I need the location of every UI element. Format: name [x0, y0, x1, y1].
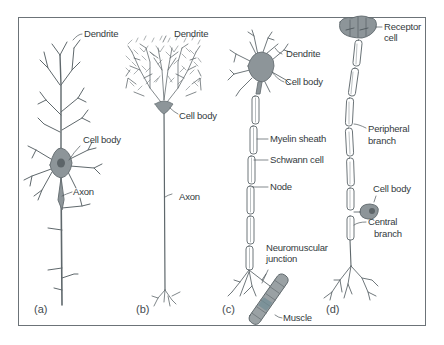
label-b-cell-body: Cell body [179, 111, 217, 121]
label-c-dendrite: Dendrite [286, 49, 320, 59]
label-c-neuromuscular-junction-line1: Neuromuscular [266, 243, 328, 253]
label-b-axon: Axon [179, 192, 200, 202]
panel-tag-c: (c) [222, 303, 235, 315]
label-a-axon: Axon [73, 187, 94, 197]
panel-tag-b: (b) [136, 303, 149, 315]
label-d-central-branch-line2: branch [374, 229, 402, 239]
label-c-node: Node [270, 182, 292, 192]
neuron-a [24, 40, 102, 305]
neuron-c [228, 30, 290, 326]
label-d-cell-body: Cell body [373, 184, 411, 194]
label-c-neuromuscular-junction-line2: junction [266, 254, 297, 264]
label-c-schwann-cell: Schwann cell [270, 155, 324, 165]
label-c-muscle: Muscle [283, 313, 312, 323]
label-d-central-branch-line1: Central [368, 217, 397, 227]
label-a-dendrite: Dendrite [84, 29, 118, 39]
panel-tag-d: (d) [326, 303, 339, 315]
label-d-receptor-cell-line1: Receptor [384, 22, 421, 32]
neuron-d [324, 16, 378, 300]
label-d-receptor-cell-line2: cell [384, 33, 397, 43]
neuron-diagram [0, 0, 444, 345]
label-a-cell-body: Cell body [83, 135, 121, 145]
label-d-peripheral-branch-line1: Peripheral [368, 124, 409, 134]
label-d-peripheral-branch-line2: branch [368, 136, 396, 146]
neuron-b [126, 36, 201, 306]
label-c-myelin-sheath: Myelin sheath [270, 134, 326, 144]
label-c-cell-body: Cell body [285, 77, 323, 87]
leader-lines [62, 27, 382, 318]
panel-tag-a: (a) [34, 303, 47, 315]
label-b-dendrite: Dendrite [174, 29, 208, 39]
